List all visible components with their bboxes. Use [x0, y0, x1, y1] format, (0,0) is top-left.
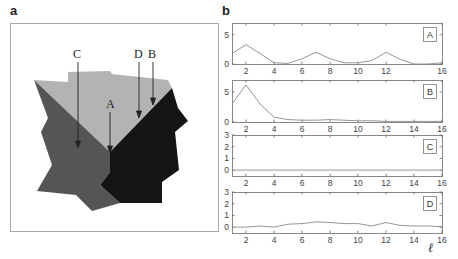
x-tick-label: 8: [328, 178, 333, 188]
x-tick-label: 2: [244, 235, 249, 245]
axes-frame: [233, 81, 443, 123]
x-tick-label: 8: [328, 235, 333, 245]
x-tick-label: 2: [244, 178, 249, 188]
y-tick-label: 3: [224, 187, 229, 197]
x-tick-label: 10: [353, 124, 363, 134]
x-tick-label: 6: [300, 66, 305, 76]
x-tick-label: 2: [244, 66, 249, 76]
axes-frame: [233, 24, 443, 65]
legend-label: C: [427, 142, 434, 152]
legend-box: C: [424, 140, 437, 154]
x-tick-label: 10: [353, 178, 363, 188]
y-tick-label: 2: [224, 142, 229, 152]
axes-frame: [233, 193, 443, 234]
chart-c: 2468101214160123C: [224, 130, 447, 188]
legend-box: D: [424, 197, 437, 211]
x-tick-label: 12: [381, 235, 391, 245]
x-tick-label: 4: [272, 235, 277, 245]
x-tick-label: 16: [437, 235, 447, 245]
x-tick-label: 6: [300, 178, 305, 188]
x-tick-label: 16: [437, 124, 447, 134]
x-tick-label: 14: [409, 178, 419, 188]
x-tick-label: 16: [437, 66, 447, 76]
x-tick-label: 4: [272, 178, 277, 188]
x-tick-label: 16: [437, 178, 447, 188]
x-tick-label: 12: [381, 66, 391, 76]
x-tick-label: 8: [328, 124, 333, 134]
y-tick-label: 1: [224, 210, 229, 220]
chart-d: 2468101214160123D: [224, 187, 447, 245]
x-tick-label: 14: [409, 124, 419, 134]
legend-label: A: [427, 30, 433, 40]
y-tick-label: 0: [224, 117, 229, 127]
x-axis-label: ℓ: [428, 240, 434, 255]
x-tick-label: 2: [244, 124, 249, 134]
y-tick-label: 5: [224, 30, 229, 40]
x-tick-label: 10: [353, 235, 363, 245]
x-tick-label: 8: [328, 66, 333, 76]
legend-label: B: [427, 87, 433, 97]
x-tick-label: 6: [300, 235, 305, 245]
x-tick-label: 4: [272, 124, 277, 134]
y-tick-label: 5: [224, 87, 229, 97]
y-tick-label: 0: [224, 59, 229, 69]
legend-label: D: [427, 199, 434, 209]
chart-a: 246810121605A: [224, 23, 447, 76]
chart-b: 24681012141605B: [224, 80, 447, 134]
x-tick-label: 12: [381, 124, 391, 134]
x-tick-label: 14: [409, 235, 419, 245]
y-tick-label: 2: [224, 199, 229, 209]
y-tick-label: 1: [224, 153, 229, 163]
legend-box: A: [424, 28, 437, 42]
x-tick-label: 4: [272, 66, 277, 76]
y-tick-label: 3: [224, 130, 229, 140]
x-tick-label: 12: [381, 178, 391, 188]
panel-b-charts: 246810121605A24681012141605B246810121416…: [0, 0, 458, 259]
x-tick-label: 6: [300, 124, 305, 134]
x-tick-label: 10: [353, 66, 363, 76]
y-tick-label: 0: [224, 165, 229, 175]
y-tick-label: 0: [224, 222, 229, 232]
legend-box: B: [424, 85, 437, 99]
